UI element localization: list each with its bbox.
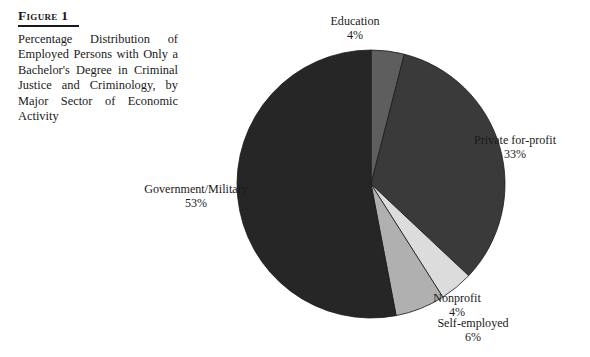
figure-container: Figure 1 Percentage Distribution of Empl… — [0, 0, 590, 357]
pie-chart-svg — [0, 0, 590, 357]
slice-label-self-employed-value: 6% — [437, 330, 508, 344]
slice-label-self-employed: Self-employed 6% — [437, 316, 508, 344]
slice-label-private-for-profit-value: 33% — [474, 147, 556, 161]
slice-label-government-military-name: Government/Military — [144, 182, 247, 196]
pie-chart: Education 4% Private for-profit 33% Nonp… — [0, 0, 590, 357]
slice-label-nonprofit-name: Nonprofit — [433, 291, 481, 305]
slice-label-private-for-profit: Private for-profit 33% — [474, 133, 556, 161]
slice-label-education-name: Education — [330, 14, 379, 28]
slice-label-self-employed-name: Self-employed — [437, 316, 508, 330]
slice-label-private-for-profit-name: Private for-profit — [474, 133, 556, 147]
slice-label-education: Education 4% — [330, 14, 379, 42]
slice-label-government-military-value: 53% — [144, 196, 247, 210]
slice-label-education-value: 4% — [330, 28, 379, 42]
pie-slice-group — [237, 50, 505, 318]
slice-label-government-military: Government/Military 53% — [144, 182, 247, 210]
